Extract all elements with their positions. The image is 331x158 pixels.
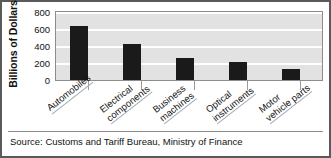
y-axis-tick-800: 800 xyxy=(22,8,50,17)
x-axis-label-3: Opticalinstruments xyxy=(204,77,256,125)
bar-2 xyxy=(176,58,194,80)
x-axis-label-4: Motorvehicle parts xyxy=(257,74,313,124)
x-axis-label-1: Electricalcomponents xyxy=(98,75,152,124)
x-axis-label-2: Businessmachines xyxy=(151,82,197,124)
y-axis-title: Billions of Dollars xyxy=(4,2,22,86)
footer-divider xyxy=(8,131,323,132)
chart-figure: Billions of Dollars 8006004002000 Automo… xyxy=(0,0,331,158)
y-axis-title-text: Billions of Dollars xyxy=(7,0,19,87)
y-axis-tick-600: 600 xyxy=(22,25,50,34)
gridline-400 xyxy=(56,46,322,48)
gridline-600 xyxy=(56,29,322,31)
bar-3 xyxy=(229,62,247,80)
x-axis-category-labels: AutomobilesElectricalcomponentsBusinessm… xyxy=(2,81,331,129)
y-axis-tick-200: 200 xyxy=(22,59,50,68)
gridline-800 xyxy=(56,12,322,14)
leader-line-2 xyxy=(194,81,195,90)
source-note: Source: Customs and Tariff Bureau, Minis… xyxy=(10,136,243,147)
plot-area xyxy=(55,11,323,81)
y-axis-tick-400: 400 xyxy=(22,42,50,51)
y-axis-tick-labels: 8006004002000 xyxy=(22,10,52,80)
